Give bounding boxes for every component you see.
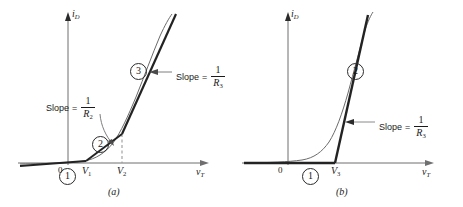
slope-label-r2: Slope = 1 R2 <box>46 96 95 120</box>
panel-b-caption: (b) <box>336 187 348 197</box>
panel-b: iD vT 0 V3 1 2 Slope = 1 R3 (b) <box>232 0 463 207</box>
slope-label-r3-b: Slope = 1 R3 <box>379 115 428 139</box>
x-axis-label-a: vT <box>196 167 204 178</box>
slope-label-r3-a: Slope = 1 R3 <box>176 65 225 89</box>
segment-number-3-a: 3 <box>130 63 147 80</box>
y-axis-label-b: iD <box>291 9 299 20</box>
segment-number-1-b: 1 <box>302 168 319 185</box>
y-axis-arrow-a <box>65 12 71 21</box>
leader-arrow-r3-b <box>345 119 354 125</box>
smooth-diode-curve-b <box>246 12 373 163</box>
panel-a-caption: (a) <box>108 187 120 197</box>
pw-segment-2-b <box>335 15 368 163</box>
origin-label-b: 0 <box>278 166 283 175</box>
tick-label-v1: V1 <box>82 166 91 177</box>
segment-number-1-a: 1 <box>59 168 76 185</box>
segment-number-2-b: 2 <box>347 63 364 80</box>
panel-b-axes <box>242 12 434 166</box>
x-axis-arrow-a <box>200 160 209 166</box>
panel-a: iD vT 0 V1 V2 1 2 3 Slope = 1 R2 Slope =… <box>0 0 232 207</box>
segment-number-2-a: 2 <box>92 136 109 153</box>
x-axis-label-b: vT <box>422 167 430 178</box>
y-axis-label-a: iD <box>72 9 80 20</box>
tick-label-v2: V2 <box>117 166 126 177</box>
tick-label-v3: V3 <box>331 166 340 177</box>
diode-piecewise-linear-figure: iD vT 0 V1 V2 1 2 3 Slope = 1 R2 Slope =… <box>0 0 463 207</box>
